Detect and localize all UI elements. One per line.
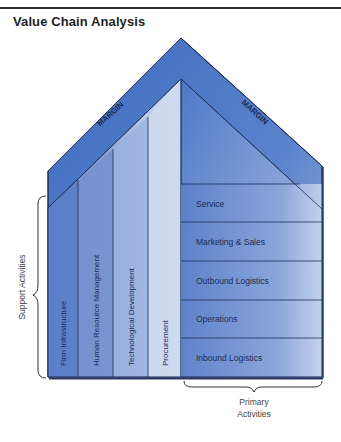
support-item-procurement: Procurement bbox=[161, 319, 170, 366]
primary-activities-label-line2: Activities bbox=[237, 409, 271, 419]
primary-item-marketing-sales: Marketing & Sales bbox=[196, 237, 265, 247]
value-chain-diagram: MARGIN MARGIN Firm Infrastructure Human … bbox=[0, 0, 341, 442]
support-activities-label: Support Activities bbox=[17, 254, 27, 319]
support-item-firm-infrastructure: Firm Infrastructure bbox=[59, 300, 68, 366]
support-item-hr-management: Human Resource Management bbox=[92, 254, 101, 366]
primary-item-operations: Operations bbox=[196, 314, 238, 324]
support-brace bbox=[33, 196, 46, 378]
primary-activities-label-line1: Primary bbox=[239, 397, 269, 407]
support-item-tech-development: Technological Development bbox=[127, 267, 136, 366]
primary-item-service: Service bbox=[196, 199, 225, 209]
primary-item-inbound-logistics: Inbound Logistics bbox=[196, 353, 262, 363]
primary-item-outbound-logistics: Outbound Logistics bbox=[196, 276, 269, 286]
primary-brace bbox=[184, 381, 322, 392]
